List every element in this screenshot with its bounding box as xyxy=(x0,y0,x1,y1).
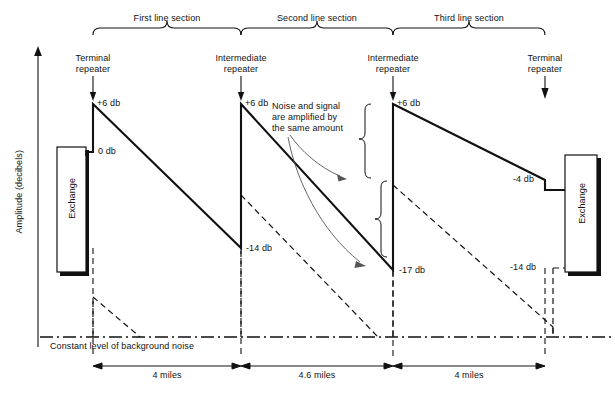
amplification-bracket-signal xyxy=(359,104,371,178)
repeater-label-2-line1: Intermediate xyxy=(196,53,286,64)
repeater-arrow-3 xyxy=(390,76,396,101)
repeater-arrow-1 xyxy=(90,76,96,101)
level-label-peak-1: +6 db xyxy=(97,98,120,109)
figure-canvas: First line section Second line section T… xyxy=(0,0,615,404)
repeater-label-4-line2: repeater xyxy=(505,64,585,75)
y-axis xyxy=(34,46,42,347)
repeater-label-3-line1: Intermediate xyxy=(348,53,438,64)
annotation-leader-lower xyxy=(288,137,366,268)
y-axis-label: Amplitude (decibels) xyxy=(14,150,25,234)
repeater-label-1-line2: repeater xyxy=(53,64,133,75)
distance-dimension-1 xyxy=(93,363,241,369)
repeater-arrow-4 xyxy=(541,76,548,99)
repeater-arrow-2 xyxy=(238,76,244,101)
background-noise-label: Constant level of background noise xyxy=(50,341,194,352)
amplification-bracket-noise xyxy=(375,181,387,257)
exchange-right-label: Exchange xyxy=(577,183,588,224)
level-label-start: 0 db xyxy=(98,146,116,157)
noise-trace xyxy=(93,185,565,337)
distance-label-3: 4 miles xyxy=(419,370,519,381)
exchange-left-label: Exchange xyxy=(67,178,78,219)
y-axis-arrowhead xyxy=(34,46,42,56)
distance-label-2: 4.6 miles xyxy=(267,370,367,381)
repeater-label-4-line1: Terminal xyxy=(505,53,585,64)
distance-label-1: 4 miles xyxy=(117,370,217,381)
level-label-trough-2: -17 db xyxy=(399,265,425,276)
distance-dimension-2 xyxy=(241,363,393,369)
section-label-1: First line section xyxy=(107,13,227,24)
level-label-trough-1: -14 db xyxy=(246,243,272,254)
level-label-exchange-floor: -14 db xyxy=(510,262,536,273)
annotation-line-1: Noise and signal xyxy=(272,101,340,112)
annotation-line-3: the same amount xyxy=(272,123,343,134)
level-label-peak-2: +6 db xyxy=(245,98,268,109)
section-label-3: Third line section xyxy=(409,13,529,24)
level-label-peak-3: +6 db xyxy=(397,98,420,109)
annotation-line-2: are amplified by xyxy=(272,112,337,123)
section-label-2: Second line section xyxy=(257,13,377,24)
distance-dimension-3 xyxy=(393,363,545,369)
repeater-label-1-line1: Terminal xyxy=(53,53,133,64)
repeater-label-2-line2: repeater xyxy=(196,64,286,75)
level-label-exchange-in: -4 db xyxy=(513,174,534,185)
repeater-label-3-line2: repeater xyxy=(348,64,438,75)
